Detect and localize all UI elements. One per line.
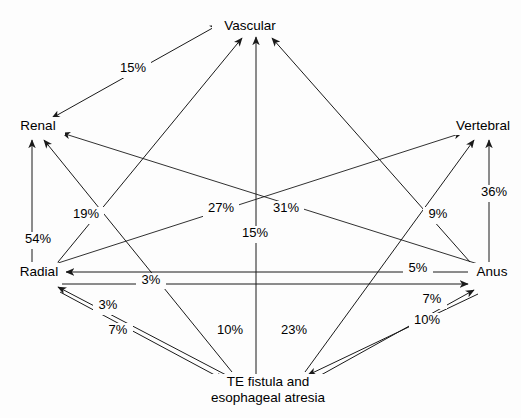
node-label-tefistula-line2: esophageal atresia [211,390,326,405]
node-label-anus: Anus [477,264,508,279]
edge-label-tefistula-renal: 19% [73,206,99,221]
edge-label-radial-vertebral: 31% [273,200,299,215]
node-label-radial: Radial [20,264,58,279]
edge-label-renal-vascular: 15% [120,60,146,75]
edge-anus-tefistula [308,294,478,375]
edge-label-tefistula-vascular: 15% [242,225,268,240]
edge-label-anus-vertebral: 36% [481,184,507,199]
node-label-renal: Renal [20,118,55,133]
edge-tefistula-renal [44,140,232,372]
edge-anus-renal [62,133,478,264]
edge-label-tefistula-vertebral: 9% [429,206,448,221]
vacterl-association-diagram: Vascular Renal Vertebral Radial Anus TE … [0,0,521,418]
edge-radial-tefistula [60,292,224,380]
edge-tefistula-radial [58,287,228,376]
edge-label-anus-vascular: 23% [281,322,307,337]
diagram-canvas: Vascular Renal Vertebral Radial Anus TE … [0,0,521,418]
node-label-vertebral: Vertebral [456,118,510,133]
edge-label-radial-tefistula: 7% [109,322,128,337]
edge-label-anus-renal: 27% [208,200,234,215]
edge-labels-group: 15% 54% 19% 27% 31% 15% 36% 9% 3% 5% 3% … [20,60,512,340]
node-label-tefistula-line1: TE fistula and [227,374,310,389]
edge-anus-vascular [272,38,470,262]
node-label-vascular: Vascular [224,18,276,33]
edge-label-anus-radial: 3% [142,272,161,287]
edge-label-anus-tefistula: 10% [414,312,440,327]
edge-radial-vertebral [55,133,462,264]
edge-label-radial-anus: 5% [409,260,428,275]
edge-label-tefistula-anus: 7% [423,291,442,306]
edge-label-tefistula-radial: 3% [99,297,118,312]
edge-label-radial-renal: 54% [25,231,51,246]
edge-label-radial-vascular: 10% [217,322,243,337]
